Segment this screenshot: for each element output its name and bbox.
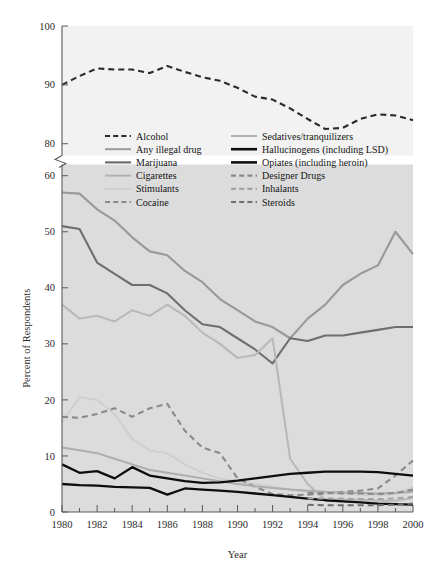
legend-label-hallucinogens-including-lsd: Hallucinogens (including LSD) [262,144,388,156]
legend-label-designer-drugs: Designer Drugs [262,170,325,181]
x-tick-label: 1982 [87,519,108,530]
legend-label-opiates-including-heroin: Opiates (including heroin) [262,157,368,169]
legend-label-any-illegal-drug: Any illegal drug [136,144,202,155]
legend-label-cigarettes: Cigarettes [136,170,177,181]
y-tick-label: 20 [45,395,56,406]
y-tick-label: 90 [45,79,56,90]
x-tick-label: 1988 [192,519,213,530]
legend-label-alcohol: Alcohol [136,131,168,142]
y-tick-label: 80 [45,138,56,149]
x-tick-label: 1990 [227,519,248,530]
chart-container: 0102030405060809010019801982198419861988… [0,0,438,578]
x-tick-label: 1994 [297,519,319,530]
legend-label-marijuana: Marijuana [136,157,178,168]
y-tick-label: 30 [45,338,56,349]
x-tick-label: 1998 [367,519,388,530]
x-tick-label: 1984 [122,519,144,530]
y-tick-label: 60 [45,170,56,181]
y-tick-label: 100 [39,21,55,32]
y-tick-label: 40 [45,282,56,293]
y-tick-label: 10 [45,451,56,462]
x-tick-label: 1992 [262,519,283,530]
y-axis-title: Percent of Respondents [21,289,32,388]
x-axis-title: Year [228,549,248,560]
legend-label-inhalants: Inhalants [262,183,299,194]
legend-label-cocaine: Cocaine [136,197,169,208]
legend-label-steroids: Steroids [262,197,295,208]
y-tick-label: 50 [45,226,56,237]
legend-label-stimulants: Stimulants [136,183,179,194]
x-tick-label: 2000 [403,519,424,530]
legend-label-sedatives-tranquilizers: Sedatives/tranquilizers [262,131,353,142]
y-tick-label: 0 [50,507,55,518]
line-chart: 0102030405060809010019801982198419861988… [0,0,438,578]
x-tick-label: 1986 [157,519,178,530]
x-tick-label: 1996 [332,519,353,530]
x-tick-label: 1980 [52,519,73,530]
